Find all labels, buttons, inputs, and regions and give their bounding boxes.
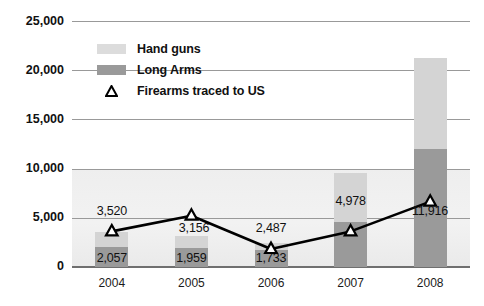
x-axis-tick-2007: 2007 xyxy=(337,276,364,290)
hand-guns-swatch xyxy=(97,44,126,54)
x-axis-tick-2008: 2008 xyxy=(417,276,444,290)
legend-label-firearms-traced: Firearms traced to US xyxy=(137,84,265,98)
triangle-marker-icon xyxy=(97,85,126,97)
x-axis-tick-2006: 2006 xyxy=(258,276,285,290)
legend-item-long-arms: Long Arms xyxy=(97,61,265,78)
y-axis-tick-15000: 15,000 xyxy=(0,112,64,126)
legend-item-hand-guns: Hand guns xyxy=(97,40,265,57)
triangle-marker-icon xyxy=(265,243,277,253)
triangle-marker-icon xyxy=(106,225,118,235)
line-label-2006: 2,487 xyxy=(256,221,286,235)
y-axis-tick-25000: 25,000 xyxy=(0,14,64,28)
long-arms-swatch xyxy=(97,65,126,75)
y-axis-tick-5000: 5,000 xyxy=(0,210,64,224)
line-label-2005: 3,156 xyxy=(179,221,209,235)
triangle-marker-icon xyxy=(186,209,198,219)
line-label-2004: 3,520 xyxy=(97,204,127,218)
firearms-traced-chart: 25,000 20,000 15,000 10,000 5,000 0 2,05… xyxy=(0,0,484,306)
triangle-marker-icon xyxy=(345,225,357,235)
legend-label-long-arms: Long Arms xyxy=(137,63,202,77)
x-axis-tick-2004: 2004 xyxy=(98,276,125,290)
x-axis-tick-2005: 2005 xyxy=(178,276,205,290)
y-axis-tick-20000: 20,000 xyxy=(0,63,64,77)
y-axis-tick-10000: 10,000 xyxy=(0,161,64,175)
legend-item-firearms-traced: Firearms traced to US xyxy=(97,82,265,99)
chart-legend: Hand guns Long Arms Firearms traced to U… xyxy=(97,40,265,103)
x-axis: 2004 2005 2006 2007 2008 xyxy=(72,276,470,296)
line-label-2008: 11,916 xyxy=(412,204,448,218)
legend-label-hand-guns: Hand guns xyxy=(137,42,201,56)
y-axis-tick-0: 0 xyxy=(0,259,64,273)
